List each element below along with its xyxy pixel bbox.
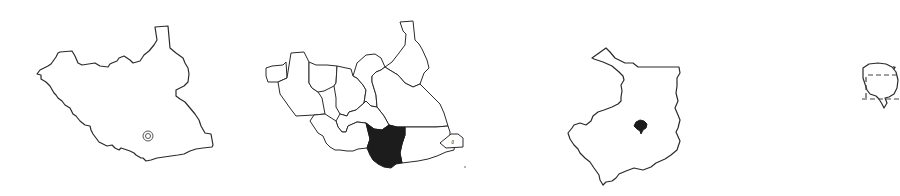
location-marker-inner-ring (146, 134, 151, 139)
map-panel-state-detail (560, 0, 700, 196)
stray-dot (464, 166, 466, 168)
inset-boundary (863, 63, 898, 108)
local-inset-map (850, 0, 900, 196)
state-detail-map (560, 0, 700, 196)
country-outline-map (30, 0, 230, 196)
location-marker-outer-ring (143, 131, 153, 141)
map-panel-country-states: ง (255, 0, 475, 196)
map-panel-local-inset (850, 0, 900, 196)
state-central-equatoria-highlighted (366, 123, 405, 168)
map-panel-country-outline (30, 0, 230, 196)
country-states-map: ง (255, 0, 475, 196)
highlighted-sub-area (634, 120, 647, 134)
state-boundary (568, 48, 680, 185)
ilemi-label-mark: ง (451, 139, 454, 145)
state-northern-bahr-el-ghazal (309, 62, 337, 92)
country-boundary (37, 26, 213, 161)
